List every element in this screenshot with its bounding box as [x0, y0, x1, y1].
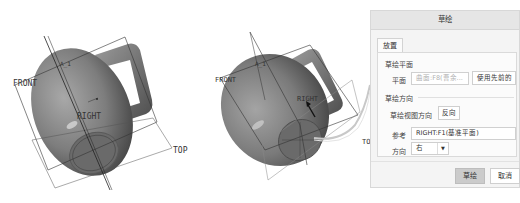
sketch-dialog: 草绘 放置 草绘平面 平面 曲面:F8(曹余... 使用先前的 草绘方向 草绘视… [370, 10, 520, 188]
mug-model-right [190, 0, 370, 203]
front-plane-label: FRONT [13, 79, 37, 88]
sketch-orientation-section-title: 草绘方向 [385, 93, 413, 103]
right-plane-label: RIGHT [77, 112, 101, 121]
top-plane-label: TOP [173, 146, 187, 155]
sketch-button[interactable]: 草绘 [455, 168, 485, 184]
flip-button[interactable]: 反向 [438, 106, 460, 120]
footer-divider [371, 161, 519, 162]
plane-input[interactable]: 曲面:F8(曹余... [411, 72, 469, 85]
reference-input[interactable]: RIGHT:F1(基准平面) [411, 127, 516, 140]
axis-label: A_1 [60, 60, 71, 67]
right-plane-label: RIGHT [297, 95, 318, 103]
placement-panel: 草绘平面 平面 曲面:F8(曹余... 使用先前的 草绘方向 草绘视图方向 反向… [377, 52, 517, 157]
direction-label: 方向 [392, 146, 406, 156]
view-direction-label: 草绘视图方向 [390, 110, 432, 120]
cancel-button[interactable]: 取消 [490, 168, 520, 184]
use-previous-button[interactable]: 使用先前的 [472, 71, 516, 85]
direction-select[interactable]: 右 ▼ [411, 142, 449, 155]
axis-label: A_1 [255, 60, 266, 67]
chevron-down-icon[interactable]: ▼ [437, 143, 448, 154]
reference-label: 参考 [392, 130, 406, 140]
direction-select-value: 右 [416, 144, 423, 152]
plane-label: 平面 [392, 75, 406, 85]
front-plane-label: FRONT [215, 76, 236, 84]
mug-model-left [0, 0, 190, 203]
sketch-plane-section-title: 草绘平面 [385, 59, 413, 69]
model-viewport-right[interactable]: FRONT RIGHT TOP A_1 [190, 0, 370, 203]
model-viewport-left[interactable]: FRONT RIGHT TOP A_1 [0, 0, 190, 203]
tab-placement[interactable]: 放置 [377, 38, 403, 53]
section-divider [418, 97, 514, 98]
dialog-title: 草绘 [371, 11, 519, 30]
